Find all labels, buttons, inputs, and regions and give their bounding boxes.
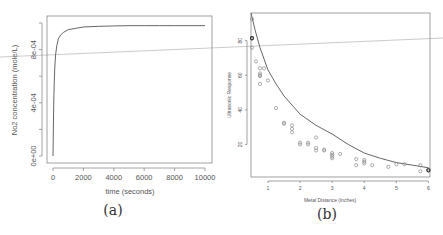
panel-b-x-axis-title: Metal Distance (inches) <box>304 197 357 203</box>
panel-a-caption: (a) <box>103 202 122 218</box>
panel-b-y-tick-label: 20 <box>237 141 243 147</box>
panel-b-data-point <box>290 131 293 134</box>
panel-b-data-point <box>266 79 269 82</box>
panel-b-data-point-overlapping <box>250 36 253 39</box>
panel-b-caption: (b) <box>317 206 337 222</box>
panel-b-x-tick-label: 5 <box>395 185 398 191</box>
panel-a-y-axis-title: No2 concentration (mole/L) <box>10 44 19 135</box>
panel-b-data-point <box>387 165 390 168</box>
panel-b-data-point <box>371 164 374 167</box>
panel-b-y-axis-title: Ultrasonic Response <box>226 72 232 118</box>
panel-a-y-tick-label: 8e-04 <box>29 40 38 59</box>
panel-b-data-point <box>355 158 358 161</box>
panel-b-fit-curve <box>251 13 428 168</box>
panel-b-y-tick-label: 80 <box>237 38 243 44</box>
panel-b-data-point <box>274 107 277 110</box>
panel-a-x-tick-label: 0 <box>51 173 55 182</box>
panel-b-x-tick-label: 6 <box>427 185 430 191</box>
panel-b-y-tick-label: 40 <box>237 107 243 113</box>
panel-b-x-tick-label: 3 <box>331 185 334 191</box>
panel-b-data-point <box>290 127 293 130</box>
panel-b-data-point <box>339 152 342 155</box>
panel-b-scatter-chart: 123456 20406080 Metal Distance (inches) … <box>226 13 430 222</box>
panel-a-plot-frame <box>47 16 212 163</box>
panel-b-y-axis: 20406080 <box>237 38 247 148</box>
panel-b-data-point <box>315 136 318 139</box>
panel-a-x-tick-label: 10000 <box>195 173 216 182</box>
figure: 0200040006000800010000 0e+004e-048e-04 t… <box>0 0 443 235</box>
panel-a-x-tick-label: 4000 <box>105 173 122 182</box>
panel-a-x-tick-label: 6000 <box>136 173 153 182</box>
panel-b-data-point <box>254 60 257 63</box>
panel-a-line-chart: 0200040006000800010000 0e+004e-048e-04 t… <box>10 16 215 218</box>
panel-b-x-tick-label: 1 <box>267 185 270 191</box>
panel-a-x-axis: 0200040006000800010000 <box>51 168 216 182</box>
panel-a-y-axis: 0e+004e-048e-04 <box>29 23 42 167</box>
panel-b-data-point <box>355 164 358 167</box>
panel-b-x-axis: 123456 <box>267 181 430 191</box>
panel-b-points <box>250 17 430 172</box>
panel-b-data-point <box>290 124 293 127</box>
overlay-artifact-line <box>0 38 443 57</box>
panel-a-series-line <box>53 26 205 156</box>
panel-a-y-tick-label: 0e+00 <box>29 145 38 166</box>
panel-b-data-point <box>262 67 265 70</box>
panel-b-data-point <box>258 82 261 85</box>
panel-b-x-tick-label: 2 <box>299 185 302 191</box>
panel-a-x-tick-label: 2000 <box>75 173 92 182</box>
panel-a-y-tick-label: 4e-04 <box>29 93 38 112</box>
panel-b-data-point <box>395 163 398 166</box>
panel-a-x-tick-label: 8000 <box>166 173 183 182</box>
panel-b-data-point <box>258 67 261 70</box>
panel-a-x-axis-title: time (seconds) <box>105 187 155 196</box>
panel-b-x-tick-label: 4 <box>363 185 366 191</box>
panel-b-data-point-overlapping <box>427 169 430 172</box>
panel-b-data-point <box>419 170 422 173</box>
panel-b-y-tick-label: 60 <box>237 72 243 78</box>
